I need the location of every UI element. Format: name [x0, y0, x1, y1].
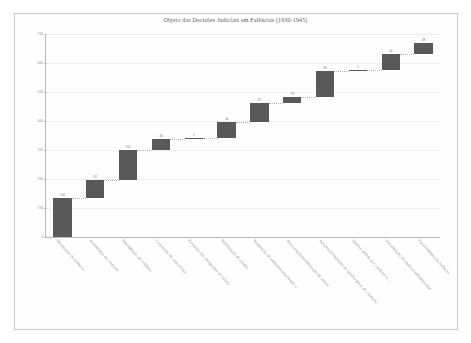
x-axis-category-label: Quebra pedida por credores e... — [351, 238, 392, 283]
bar-value-label: 36 — [159, 134, 162, 138]
bar[interactable] — [217, 122, 235, 138]
x-axis-category-label: Impugnação de créditos — [121, 238, 153, 273]
x-axis-category-label: Habilitação de crédito — [220, 238, 250, 270]
y-axis-tick-mark — [44, 179, 46, 180]
y-axis-tick-label: 0 — [41, 235, 43, 239]
y-axis-tick-mark — [44, 208, 46, 209]
bar[interactable] — [349, 70, 367, 71]
bar-value-label: 136 — [60, 193, 65, 197]
gridline — [46, 208, 440, 209]
plot-area: 0100200300400500600700136621033655467198… — [45, 34, 440, 238]
bar-value-label: 5 — [357, 65, 359, 69]
x-axis-category-label: Decretação de falência — [56, 238, 87, 271]
waterfall-connector — [400, 54, 414, 55]
bar-value-label: 38 — [422, 38, 425, 42]
gridline — [46, 34, 440, 35]
y-axis-tick-mark — [44, 92, 46, 93]
bar-value-label: 56 — [389, 49, 392, 53]
bar[interactable] — [53, 198, 71, 237]
waterfall-connector — [301, 97, 315, 98]
bar[interactable] — [382, 54, 400, 70]
bar[interactable] — [86, 180, 104, 198]
bar-value-label: 54 — [225, 117, 228, 121]
gridline — [46, 92, 440, 93]
waterfall-connector — [269, 103, 283, 104]
bar-value-label: 5 — [193, 133, 195, 137]
waterfall-connector — [72, 198, 86, 199]
y-axis-tick-mark — [44, 34, 46, 35]
bar[interactable] — [185, 138, 203, 139]
y-axis-tick-label: 400 — [38, 119, 43, 123]
x-axis-category-label: Aprovação/rejeição do quadro geral de cr… — [318, 238, 379, 304]
bar[interactable] — [316, 71, 334, 97]
bar[interactable] — [250, 103, 268, 122]
bar[interactable] — [283, 97, 301, 103]
waterfall-connector — [170, 139, 184, 140]
y-axis-tick-mark — [44, 121, 46, 122]
waterfall-connector — [203, 138, 217, 139]
y-axis-tick-label: 200 — [38, 177, 43, 181]
bar-value-label: 67 — [258, 98, 261, 102]
bar-value-label: 19 — [291, 92, 294, 96]
bar[interactable] — [119, 150, 137, 180]
waterfall-connector — [137, 150, 151, 151]
y-axis-tick-label: 100 — [38, 206, 43, 210]
bar-value-label: 62 — [94, 175, 97, 179]
y-axis-tick-label: 600 — [38, 61, 43, 65]
waterfall-connector — [236, 122, 250, 123]
y-axis-tick-label: 500 — [38, 90, 43, 94]
y-axis-tick-label: 300 — [38, 148, 43, 152]
waterfall-connector — [104, 180, 118, 181]
gridline — [46, 150, 440, 151]
bar-value-label: 103 — [126, 145, 131, 149]
bar[interactable] — [414, 43, 432, 54]
bar-value-label: 89 — [323, 66, 326, 70]
y-axis-tick-mark — [44, 150, 46, 151]
x-axis-category-label: Concessão de concordata — [154, 238, 188, 275]
y-axis-tick-label: 700 — [38, 32, 43, 36]
y-axis-tick-mark — [44, 63, 46, 64]
chart-figure: Objeto das Decisões Judiciais em Falênci… — [0, 0, 471, 343]
waterfall-connector — [367, 70, 381, 71]
chart-title: Objeto das Decisões Judiciais em Falênci… — [0, 17, 471, 23]
x-axis-labels: Decretação de falênciaAssembleia de cred… — [45, 238, 440, 338]
waterfall-connector — [334, 71, 348, 72]
bar[interactable] — [152, 139, 170, 149]
x-axis-category-label: Assembleia de credores — [89, 238, 121, 273]
